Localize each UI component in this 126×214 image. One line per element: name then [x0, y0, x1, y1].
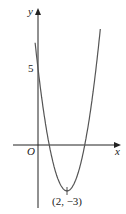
- y-axis-label: y: [27, 5, 33, 17]
- origin-label: O: [27, 145, 35, 157]
- vertex-label: (2, −3): [52, 195, 82, 208]
- parabola-curve: [35, 29, 100, 191]
- parabola-graph: y x O 5 (2, −3): [0, 0, 126, 214]
- y-intercept-label: 5: [28, 62, 34, 74]
- y-axis-arrow-icon: [35, 8, 41, 15]
- x-axis-label: x: [114, 145, 120, 157]
